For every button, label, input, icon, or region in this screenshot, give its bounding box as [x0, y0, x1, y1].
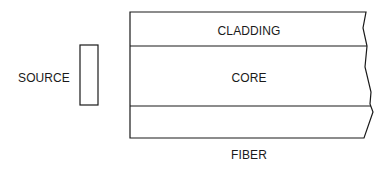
- source-block: [80, 45, 98, 105]
- core-label: CORE: [231, 71, 266, 85]
- fiber-label: FIBER: [231, 148, 267, 162]
- source-label: SOURCE: [18, 71, 70, 85]
- cladding-label: CLADDING: [218, 24, 281, 38]
- optical-fiber-diagram: SOURCE CLADDING CORE FIBER: [0, 0, 388, 169]
